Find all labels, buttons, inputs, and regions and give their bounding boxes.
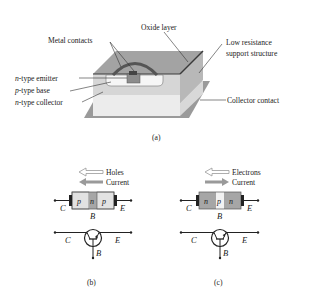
region-label-n2: n xyxy=(229,197,233,206)
legend-current-b: Current xyxy=(106,178,130,187)
symbol-terminal-c-b: C xyxy=(65,235,71,245)
caption-c: (c) xyxy=(214,278,223,287)
label-low-resistance-2: support structure xyxy=(226,49,278,58)
figure-a-device xyxy=(84,51,210,118)
electrons-arrow-icon xyxy=(205,168,229,176)
region-label-n: n xyxy=(90,197,94,206)
label-low-resistance-1: Low resistance xyxy=(226,38,272,47)
emitter-block xyxy=(127,74,140,83)
symbol-terminal-b-c: B xyxy=(223,248,228,258)
region-label-p: p xyxy=(216,197,221,206)
terminal-c-b: C xyxy=(60,203,66,213)
metal-contact-emitter xyxy=(129,71,137,75)
label-p-type-base: p-type base xyxy=(14,86,50,95)
label-metal-contacts: Metal contacts xyxy=(48,36,93,45)
region-label-n1: n xyxy=(204,197,208,206)
front-face-collector xyxy=(93,94,180,116)
legend-current-c: Current xyxy=(232,178,256,187)
legend-electrons: Electrons xyxy=(232,168,261,177)
current-arrow-right-icon xyxy=(205,178,229,186)
bjt-diagram: Oxide layer Metal contacts Low resistanc… xyxy=(0,0,319,297)
terminal-e-b: E xyxy=(119,203,126,213)
terminal-e-c: E xyxy=(246,203,253,213)
holes-arrow-icon xyxy=(79,168,103,176)
label-n-type-emitter: n-type emitter xyxy=(15,74,58,83)
figure-b: Holes Current p n p C E B xyxy=(54,168,132,287)
terminal-b-b: B xyxy=(90,211,95,221)
caption-b: (b) xyxy=(87,278,96,287)
label-oxide-layer: Oxide layer xyxy=(141,23,177,32)
terminal-c-c: C xyxy=(186,203,192,213)
symbol-terminal-e-b: E xyxy=(114,235,121,245)
terminal-b-c: B xyxy=(217,211,222,221)
region-label-p1: p xyxy=(76,197,81,206)
label-collector-contact: Collector contact xyxy=(227,96,280,105)
symbol-terminal-e-c: E xyxy=(241,235,248,245)
legend-holes: Holes xyxy=(106,168,124,177)
caption-a: (a) xyxy=(152,133,161,142)
label-n-type-collector: n-type collector xyxy=(15,98,63,107)
symbol-terminal-b-b: B xyxy=(96,248,101,258)
current-arrow-left-icon xyxy=(79,178,103,186)
symbol-terminal-c-c: C xyxy=(191,235,197,245)
region-label-p2: p xyxy=(101,197,106,206)
figure-c: Electrons Current n p n C E B xyxy=(180,168,261,287)
